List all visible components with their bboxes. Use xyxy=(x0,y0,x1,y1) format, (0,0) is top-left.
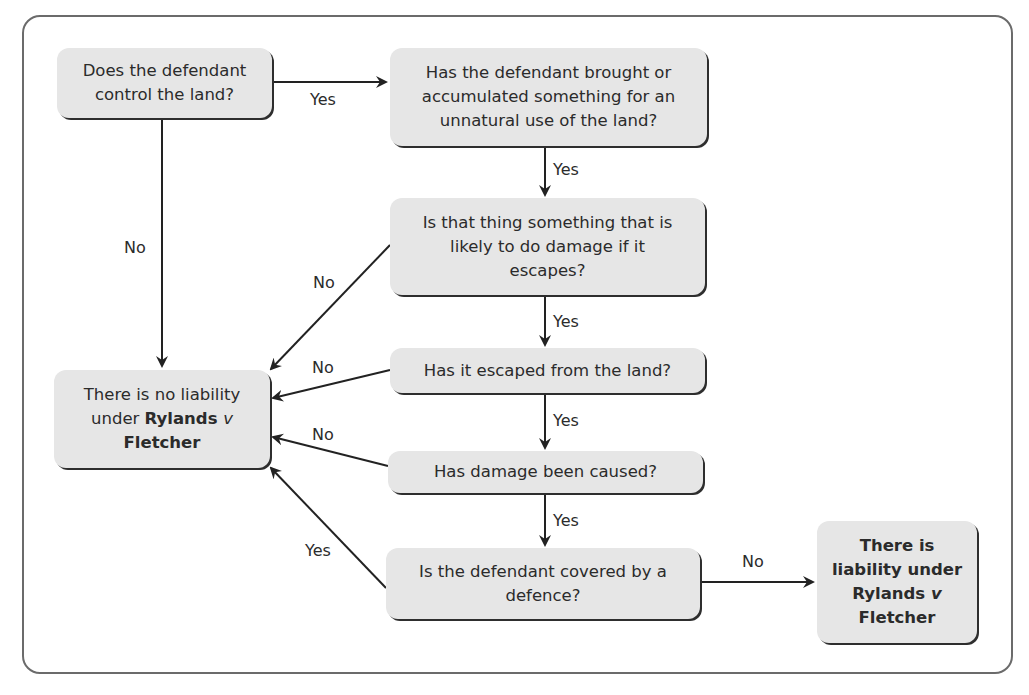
node-text: There is no liability under Rylands vFle… xyxy=(68,383,256,455)
node-text: Has it escaped from the land? xyxy=(424,359,671,383)
node-control-land: Does the defendant control the land? xyxy=(57,48,272,118)
edge-label-damage-no: No xyxy=(312,425,334,444)
edge-label-likely-no: No xyxy=(313,273,335,292)
node-damage-caused: Has damage been caused? xyxy=(388,451,703,493)
edge-label-defence-no: No xyxy=(742,552,764,571)
edge-label-escaped-yes: Yes xyxy=(553,411,579,430)
edge-label-control-no: No xyxy=(124,238,146,257)
node-text: There is liability under Rylands vFletch… xyxy=(825,534,969,630)
node-text: Does the defendant control the land? xyxy=(67,59,262,107)
edge-label-escaped-no: No xyxy=(312,358,334,377)
node-escaped: Has it escaped from the land? xyxy=(390,348,705,393)
edge-label-control-yes: Yes xyxy=(310,90,336,109)
node-text: Is that thing something that is likely t… xyxy=(410,211,685,283)
node-defence: Is the defendant covered by a defence? xyxy=(386,548,700,619)
edge-label-likely-yes: Yes xyxy=(553,312,579,331)
edge-label-defence-yes: Yes xyxy=(305,541,331,560)
edge-label-accumulated-yes: Yes xyxy=(553,160,579,179)
edge-label-damage-yes: Yes xyxy=(553,511,579,530)
node-accumulated: Has the defendant brought or accumulated… xyxy=(390,48,707,146)
node-no-liability: There is no liability under Rylands vFle… xyxy=(54,370,270,468)
node-text: Has damage been caused? xyxy=(434,460,657,484)
node-text: Is the defendant covered by a defence? xyxy=(410,560,676,608)
node-liability: There is liability under Rylands vFletch… xyxy=(817,521,977,643)
node-likely-damage: Is that thing something that is likely t… xyxy=(390,198,705,295)
node-text: Has the defendant brought or accumulated… xyxy=(400,61,697,133)
